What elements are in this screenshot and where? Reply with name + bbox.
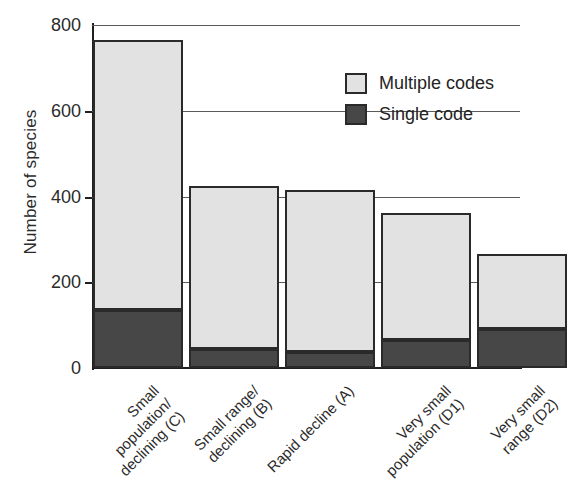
bar-segment-single-code-1[interactable] bbox=[93, 310, 183, 368]
y-tick-mark-600 bbox=[85, 111, 92, 113]
legend-swatch-multiple-codes bbox=[345, 73, 367, 94]
legend-item-multiple-codes: Multiple codes bbox=[345, 68, 535, 99]
bar-category-4[interactable] bbox=[381, 213, 471, 368]
y-tick-label-400: 400 bbox=[51, 186, 81, 207]
chart-legend: Multiple codes Single code bbox=[345, 68, 535, 130]
bar-category-5[interactable] bbox=[477, 254, 567, 368]
y-tick-mark-200 bbox=[85, 282, 92, 284]
bar-segment-multiple-codes-4[interactable] bbox=[381, 213, 471, 340]
bar-segment-multiple-codes-3[interactable] bbox=[285, 190, 375, 352]
legend-swatch-single-code bbox=[345, 104, 367, 125]
legend-item-single-code: Single code bbox=[345, 99, 535, 130]
bar-category-1[interactable] bbox=[93, 40, 183, 368]
y-tick-label-600: 600 bbox=[51, 100, 81, 121]
bar-segment-single-code-4[interactable] bbox=[381, 340, 471, 368]
bar-segment-multiple-codes-5[interactable] bbox=[477, 254, 567, 329]
bar-segment-multiple-codes-1[interactable] bbox=[93, 40, 183, 310]
bar-segment-multiple-codes-2[interactable] bbox=[189, 186, 279, 349]
legend-label-single-code: Single code bbox=[379, 104, 473, 125]
y-tick-label-800: 800 bbox=[51, 15, 81, 36]
y-tick-label-200: 200 bbox=[51, 272, 81, 293]
bar-segment-single-code-2[interactable] bbox=[189, 349, 279, 368]
legend-label-multiple-codes: Multiple codes bbox=[379, 73, 494, 94]
y-tick-mark-400 bbox=[85, 197, 92, 199]
y-tick-label-0: 0 bbox=[71, 358, 81, 379]
bar-segment-single-code-3[interactable] bbox=[285, 352, 375, 368]
bar-category-2[interactable] bbox=[189, 186, 279, 368]
bar-segment-single-code-5[interactable] bbox=[477, 329, 567, 368]
bar-category-3[interactable] bbox=[285, 190, 375, 368]
gridline-800 bbox=[92, 25, 520, 26]
y-axis-title: Number of species bbox=[21, 82, 41, 282]
